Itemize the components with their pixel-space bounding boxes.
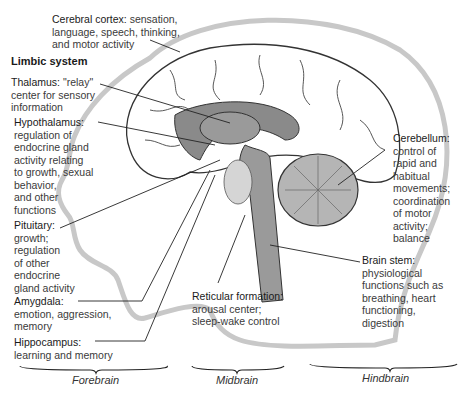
label-reticular-formation: Reticular formation: arousal center; sle… <box>192 290 312 328</box>
label-title: Cerebral cortex: <box>52 13 127 25</box>
region-midbrain: Midbrain <box>216 374 258 386</box>
label-hypothalamus: Hypothalamus: regulation of endocrine gl… <box>14 116 114 216</box>
label-amygdala: Amygdala: emotion, aggression, memory <box>14 295 134 333</box>
region-hindbrain: Hindbrain <box>362 372 409 384</box>
label-hippocampus: Hippocampus: learning and memory <box>14 336 144 361</box>
label-brain-stem: Brain stem: physiological functions such… <box>362 254 468 329</box>
label-thalamus: Thalamus: "relay" center for sensory inf… <box>11 76 121 114</box>
label-pituitary: Pituitary: growth; regulation of other e… <box>14 219 104 294</box>
region-forebrain: Forebrain <box>72 374 119 386</box>
label-cerebral-cortex: Cerebral cortex: sensation, language, sp… <box>52 13 242 51</box>
limbic-system-header: Limbic system <box>11 55 87 67</box>
label-cerebellum: Cerebellum: control of rapid and habitua… <box>393 132 468 245</box>
